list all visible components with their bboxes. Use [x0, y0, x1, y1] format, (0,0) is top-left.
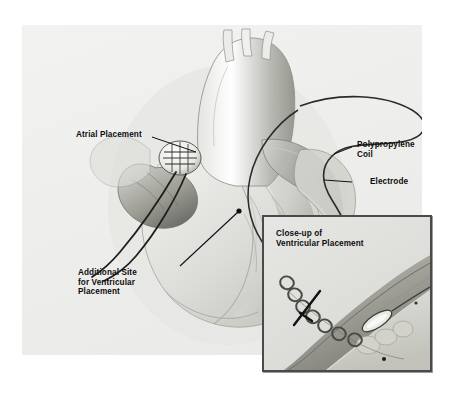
polypropylene-coil-helix: [280, 277, 362, 347]
label-atrial-placement: Atrial Placement: [76, 130, 142, 140]
site-marker-dot: [236, 208, 241, 213]
label-electrode: Electrode: [370, 177, 408, 187]
closeup-inset-panel: Close-up of Ventricular Placement: [262, 215, 432, 372]
medical-illustration-figure: Atrial Placement Polypropylene Coil Elec…: [0, 0, 451, 397]
label-additional-site: Additional Site for Ventricular Placemen…: [78, 268, 137, 297]
label-polypropylene-coil: Polypropylene Coil: [357, 140, 415, 159]
inset-caption: Close-up of Ventricular Placement: [276, 229, 364, 248]
